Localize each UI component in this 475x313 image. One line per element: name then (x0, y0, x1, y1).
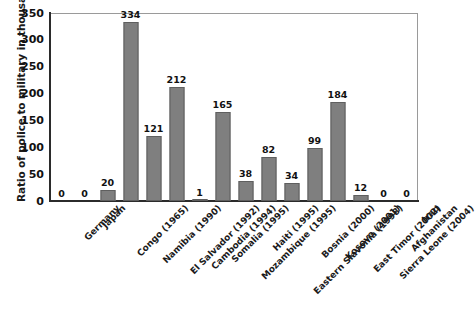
bar[interactable] (261, 157, 276, 201)
x-axis-tick-labels: GermanyJapanCongo (1965)Namibia (1990)El… (50, 203, 418, 313)
bar-group[interactable]: 165 (211, 13, 234, 201)
bar-group[interactable]: 99 (303, 13, 326, 201)
bar-value-label: 334 (121, 10, 141, 20)
bar[interactable] (192, 199, 207, 201)
bar-value-label: 121 (144, 124, 164, 134)
bar-value-label: 212 (167, 75, 187, 85)
bar[interactable] (215, 112, 230, 201)
bar-group[interactable]: 121 (142, 13, 165, 201)
bar-group[interactable]: 38 (234, 13, 257, 201)
y-axis-tick-labels: 050100150200250300350 (6, 0, 44, 313)
bar-value-label: 0 (380, 189, 387, 199)
y-tick-label: 50 (12, 169, 44, 180)
bar-group[interactable]: 34 (280, 13, 303, 201)
bar-group[interactable]: 0 (50, 13, 73, 201)
bar[interactable] (100, 190, 115, 201)
bar-value-label: 0 (58, 189, 65, 199)
bar-value-label: 165 (213, 100, 233, 110)
y-tick-label: 350 (12, 8, 44, 19)
bar[interactable] (169, 87, 184, 201)
bar-group[interactable]: 334 (119, 13, 142, 201)
bar-value-label: 34 (285, 171, 298, 181)
bar-group[interactable]: 212 (165, 13, 188, 201)
bar-group[interactable]: 184 (326, 13, 349, 201)
bar[interactable] (330, 102, 345, 201)
bar-group[interactable]: 0 (395, 13, 418, 201)
bar-value-label: 38 (239, 169, 252, 179)
y-tick-label: 200 (12, 88, 44, 99)
bar-group[interactable]: 0 (372, 13, 395, 201)
bar-value-label: 82 (262, 145, 275, 155)
bar-value-label: 0 (81, 189, 88, 199)
y-tick-label: 250 (12, 61, 44, 72)
bar-value-label: 20 (101, 178, 114, 188)
bar-group[interactable]: 1 (188, 13, 211, 201)
bar-group[interactable]: 20 (96, 13, 119, 201)
y-tick-label: 150 (12, 115, 44, 126)
y-tick-label: 100 (12, 142, 44, 153)
bar-group[interactable]: 82 (257, 13, 280, 201)
bar[interactable] (307, 148, 322, 201)
bar-value-label: 0 (403, 189, 410, 199)
bars-layer: 00203341212121165388234991841200 (50, 13, 418, 201)
bar-group[interactable]: 12 (349, 13, 372, 201)
bar[interactable] (123, 22, 138, 201)
bar[interactable] (146, 136, 161, 201)
bar-value-label: 1 (196, 188, 203, 198)
y-tick-label: 0 (12, 196, 44, 207)
bar-value-label: 184 (328, 90, 348, 100)
bar-value-label: 12 (354, 183, 367, 193)
bar-group[interactable]: 0 (73, 13, 96, 201)
y-tick-label: 300 (12, 34, 44, 45)
bar[interactable] (284, 183, 299, 201)
bar[interactable] (238, 181, 253, 201)
bar-value-label: 99 (308, 136, 321, 146)
bar[interactable] (353, 195, 368, 201)
